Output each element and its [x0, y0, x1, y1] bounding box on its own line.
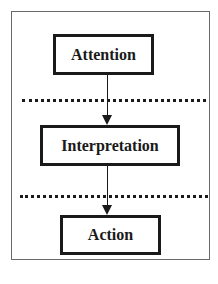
separator-dotted-1: [22, 99, 206, 102]
stage-interpretation-label: Interpretation: [61, 137, 158, 155]
arrow-head-2-icon: [102, 205, 112, 215]
stage-attention-box: Attention: [53, 34, 154, 75]
stage-attention-label: Attention: [71, 46, 136, 64]
separator-dotted-2: [20, 195, 208, 198]
stage-interpretation-box: Interpretation: [40, 125, 180, 166]
stage-action-box: Action: [60, 215, 161, 255]
arrow-shaft-2: [107, 166, 109, 206]
stage-action-label: Action: [88, 226, 133, 244]
arrow-head-1-icon: [102, 115, 112, 125]
arrow-shaft-1: [107, 75, 109, 116]
